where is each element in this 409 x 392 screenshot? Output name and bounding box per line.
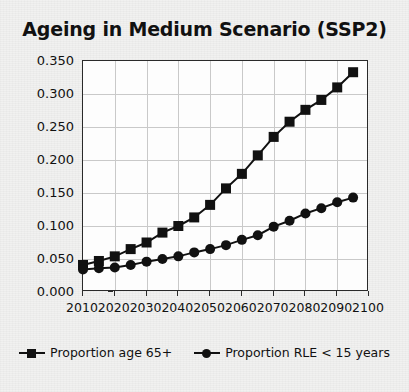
data-point-circle: [126, 260, 136, 270]
legend-circle-marker-icon: [194, 347, 220, 359]
data-point-square: [189, 212, 199, 222]
x-axis-tick-label: 2050: [193, 300, 225, 315]
plot-area: [82, 60, 368, 291]
y-axis-tick-labels: 0.0000.0500.1000.1500.2000.2500.3000.350: [26, 60, 74, 291]
x-axis-tick-labels: 2010202020302040205020602070208020902100: [82, 291, 368, 319]
y-axis-tick-label: 0.250: [26, 119, 74, 134]
x-axis-tick-mark: [304, 291, 305, 296]
x-axis-tick-mark: [336, 291, 337, 296]
data-point-square: [237, 169, 247, 179]
data-point-square: [110, 251, 120, 261]
data-point-circle: [332, 197, 342, 207]
x-axis-tick-label: 2070: [257, 300, 289, 315]
x-axis-tick-mark: [82, 291, 83, 296]
x-axis-tick-mark: [241, 291, 242, 296]
legend-item-1[interactable]: Proportion age 65+: [19, 345, 172, 360]
x-axis-tick-label: 2030: [130, 300, 162, 315]
x-axis-tick-label: 2020: [98, 300, 130, 315]
data-point-circle: [142, 257, 152, 267]
data-point-square: [205, 200, 215, 210]
x-axis-tick-mark: [114, 291, 115, 296]
series-2: [78, 193, 358, 275]
x-axis-tick-mark: [368, 291, 369, 296]
data-point-square: [221, 183, 231, 193]
y-axis-tick-label: 0.100: [26, 218, 74, 233]
legend-square-marker-icon: [19, 347, 45, 359]
y-axis-tick-label: 0.000: [26, 284, 74, 299]
data-point-square: [173, 221, 183, 231]
data-point-circle: [237, 235, 247, 245]
data-series-layer: [83, 61, 369, 292]
data-point-square: [157, 228, 167, 238]
legend-label: Proportion RLE < 15 years: [225, 345, 390, 360]
y-axis-tick-label: 0.200: [26, 152, 74, 167]
series-1: [78, 67, 358, 270]
legend-item-2[interactable]: Proportion RLE < 15 years: [194, 345, 390, 360]
data-point-circle: [205, 244, 215, 254]
data-point-circle: [285, 216, 295, 226]
data-point-circle: [269, 222, 279, 232]
scanned-figure-page: Ageing in Medium Scenario (SSP2) Proport…: [0, 0, 409, 392]
x-axis-tick-mark: [273, 291, 274, 296]
series-line: [83, 72, 353, 265]
data-point-square: [348, 67, 358, 77]
data-point-square: [300, 105, 310, 115]
x-axis-tick-label: 2010: [66, 300, 98, 315]
y-axis-tick-label: 0.150: [26, 185, 74, 200]
x-axis-tick-mark: [177, 291, 178, 296]
data-point-square: [332, 82, 342, 92]
data-point-circle: [221, 240, 231, 250]
series-line: [83, 198, 353, 270]
data-point-square: [142, 238, 152, 248]
data-point-square: [253, 150, 263, 160]
x-axis-tick-label: 2060: [225, 300, 257, 315]
data-point-circle: [94, 263, 104, 273]
legend-label: Proportion age 65+: [50, 345, 172, 360]
chart-title: Ageing in Medium Scenario (SSP2): [0, 18, 409, 40]
data-point-square: [126, 244, 136, 254]
data-point-circle: [110, 263, 120, 273]
data-point-square: [269, 132, 279, 142]
chart-legend: Proportion age 65+Proportion RLE < 15 ye…: [0, 345, 409, 360]
y-axis-tick-label: 0.300: [26, 86, 74, 101]
x-axis-tick-mark: [146, 291, 147, 296]
x-axis-tick-label: 2090: [320, 300, 352, 315]
data-point-square: [316, 95, 326, 105]
data-point-circle: [316, 203, 326, 213]
data-point-circle: [157, 254, 167, 264]
data-point-circle: [173, 251, 183, 261]
x-axis-tick-label: 2040: [161, 300, 193, 315]
data-point-circle: [300, 208, 310, 218]
data-point-square: [285, 117, 295, 127]
data-point-circle: [78, 265, 88, 275]
x-axis-tick-mark: [209, 291, 210, 296]
x-axis-tick-label: 2080: [289, 300, 321, 315]
y-axis-tick-label: 0.350: [26, 53, 74, 68]
data-point-circle: [253, 230, 263, 240]
y-axis-tick-label: 0.050: [26, 251, 74, 266]
x-axis-tick-label: 2100: [352, 300, 384, 315]
data-point-circle: [348, 193, 358, 203]
data-point-circle: [189, 247, 199, 257]
